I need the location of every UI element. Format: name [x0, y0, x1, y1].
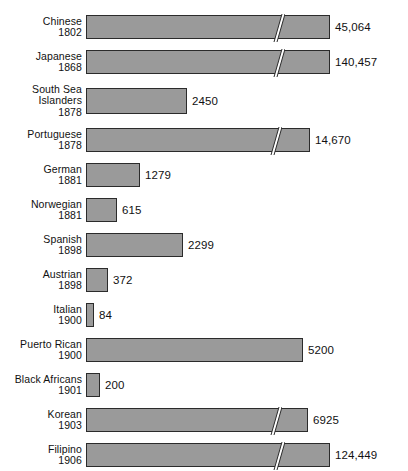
- bar-area: 2450: [86, 82, 408, 120]
- bar-area: 1279: [86, 160, 408, 190]
- bar-area: 5200: [86, 335, 408, 365]
- bar-area: 124,449: [86, 440, 408, 470]
- bar-label-year: 1900: [0, 350, 82, 362]
- bar: [86, 303, 94, 327]
- bar-label: Puerto Rican1900: [0, 339, 86, 362]
- chart-row: Japanese1868140,457: [0, 47, 408, 77]
- bar: [86, 198, 117, 222]
- bar: [86, 163, 140, 187]
- bar-label-year: 1802: [0, 27, 82, 39]
- bar-label-year: 1898: [0, 280, 82, 292]
- bar-label-year: 1903: [0, 420, 82, 432]
- bar-label: German1881: [0, 164, 86, 187]
- bar: [86, 88, 187, 114]
- bar-label-year: 1901: [0, 385, 82, 397]
- bar-value-label: 200: [105, 379, 125, 391]
- axis-break-icon: [272, 442, 285, 468]
- bar: [86, 443, 330, 467]
- chart-row: Portuguese187814,670: [0, 125, 408, 155]
- bar-label-year: 1878: [0, 107, 82, 119]
- bar-label: Portuguese1878: [0, 129, 86, 152]
- bar-label: Norwegian1881: [0, 199, 86, 222]
- chart-row: Italian190084: [0, 300, 408, 330]
- bar-label-year: 1868: [0, 62, 82, 74]
- chart-row: Black Africans1901200: [0, 370, 408, 400]
- chart-row: German18811279: [0, 160, 408, 190]
- bar-area: 84: [86, 300, 408, 330]
- bar-label: Austrian1898: [0, 269, 86, 292]
- bar-value-label: 140,457: [335, 56, 377, 68]
- chart-row: Austrian1898372: [0, 265, 408, 295]
- bar-area: 140,457: [86, 47, 408, 77]
- axis-break-icon: [272, 49, 285, 75]
- bar-area: 45,064: [86, 12, 408, 42]
- bar-label: Italian1900: [0, 304, 86, 327]
- chart-row: Korean19036925: [0, 405, 408, 435]
- bar-value-label: 2450: [192, 95, 218, 107]
- bar-value-label: 6925: [313, 414, 339, 426]
- bar-area: 6925: [86, 405, 408, 435]
- bar-value-label: 5200: [308, 344, 334, 356]
- bar-label-year: 1900: [0, 315, 82, 327]
- axis-break-icon: [269, 407, 282, 433]
- bar: [86, 268, 108, 292]
- bar-value-label: 372: [113, 274, 133, 286]
- bar-label: Chinese1802: [0, 16, 86, 39]
- bar: [86, 50, 330, 74]
- chart-row: Spanish18982299: [0, 230, 408, 260]
- bar-area: 2299: [86, 230, 408, 260]
- chart-row: Puerto Rican19005200: [0, 335, 408, 365]
- bar: [86, 338, 303, 362]
- bar-value-label: 45,064: [335, 21, 371, 33]
- axis-break-icon: [269, 127, 282, 153]
- bar: [86, 128, 310, 152]
- bar-area: 372: [86, 265, 408, 295]
- immigration-bar-chart: Chinese180245,064Japanese1868140,457Sout…: [0, 0, 408, 471]
- bar-label-year: 1881: [0, 175, 82, 187]
- bar-value-label: 124,449: [335, 449, 377, 461]
- bar-label: South SeaIslanders1878: [0, 84, 86, 119]
- chart-row: South SeaIslanders18782450: [0, 82, 408, 120]
- bar: [86, 408, 308, 432]
- bar-value-label: 2299: [188, 239, 214, 251]
- chart-row: Norwegian1881615: [0, 195, 408, 225]
- bar-area: 615: [86, 195, 408, 225]
- bar-label: Japanese1868: [0, 51, 86, 74]
- bar-area: 200: [86, 370, 408, 400]
- bar-value-label: 14,670: [315, 134, 351, 146]
- bar-value-label: 615: [122, 204, 142, 216]
- bar-label-year: 1898: [0, 245, 82, 257]
- chart-row: Chinese180245,064: [0, 12, 408, 42]
- axis-break-icon: [272, 14, 285, 40]
- bar-label: Black Africans1901: [0, 374, 86, 397]
- bar-label: Filipino1906: [0, 444, 86, 467]
- bar: [86, 373, 100, 397]
- bar-label: Korean1903: [0, 409, 86, 432]
- bar-label-year: 1906: [0, 455, 82, 467]
- bar-value-label: 84: [99, 309, 112, 321]
- bar-label-year: 1878: [0, 140, 82, 152]
- bar: [86, 233, 183, 257]
- bar-label-year: 1881: [0, 210, 82, 222]
- bar: [86, 15, 330, 39]
- bar-label: Spanish1898: [0, 234, 86, 257]
- bar-value-label: 1279: [145, 169, 171, 181]
- chart-row: Filipino1906124,449: [0, 440, 408, 470]
- bar-area: 14,670: [86, 125, 408, 155]
